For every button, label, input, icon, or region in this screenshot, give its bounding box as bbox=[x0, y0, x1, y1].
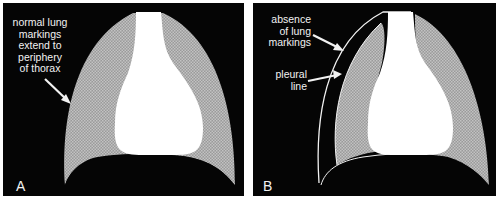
label-absence-of-lung-markings: absence of lung markings bbox=[255, 14, 311, 49]
arrow-pleural-line bbox=[308, 75, 337, 81]
label-pleural-line: pleural line bbox=[255, 69, 307, 92]
label-line: pleural bbox=[255, 69, 307, 81]
label-line: extend to bbox=[9, 40, 71, 52]
label-line: of thorax bbox=[9, 63, 71, 75]
panel-letter-b: B bbox=[263, 178, 272, 194]
panel-b-pneumothorax: absence of lung markings pleural line B bbox=[253, 3, 496, 196]
panel-a-normal-chest: normal lung markings extend to periphery… bbox=[3, 3, 244, 196]
arrow-absence-markings bbox=[313, 35, 339, 48]
panel-letter-a: A bbox=[16, 178, 25, 194]
label-normal-lung-markings: normal lung markings extend to periphery… bbox=[9, 17, 71, 75]
label-line: normal lung bbox=[9, 17, 71, 29]
arrowhead-icon bbox=[333, 70, 342, 79]
label-line: absence bbox=[255, 14, 311, 26]
label-line: markings bbox=[255, 37, 311, 49]
label-line: line bbox=[255, 81, 307, 93]
